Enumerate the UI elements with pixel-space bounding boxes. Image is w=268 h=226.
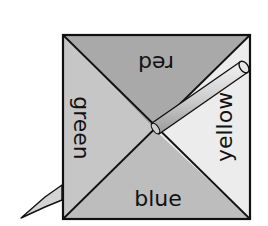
label-red: red (138, 51, 174, 76)
pencil-tip (21, 185, 62, 218)
spinner-diagram: red yellow blue green (0, 0, 268, 226)
label-blue: blue (134, 186, 182, 211)
label-yellow: yellow (212, 92, 237, 162)
label-green: green (69, 96, 94, 160)
